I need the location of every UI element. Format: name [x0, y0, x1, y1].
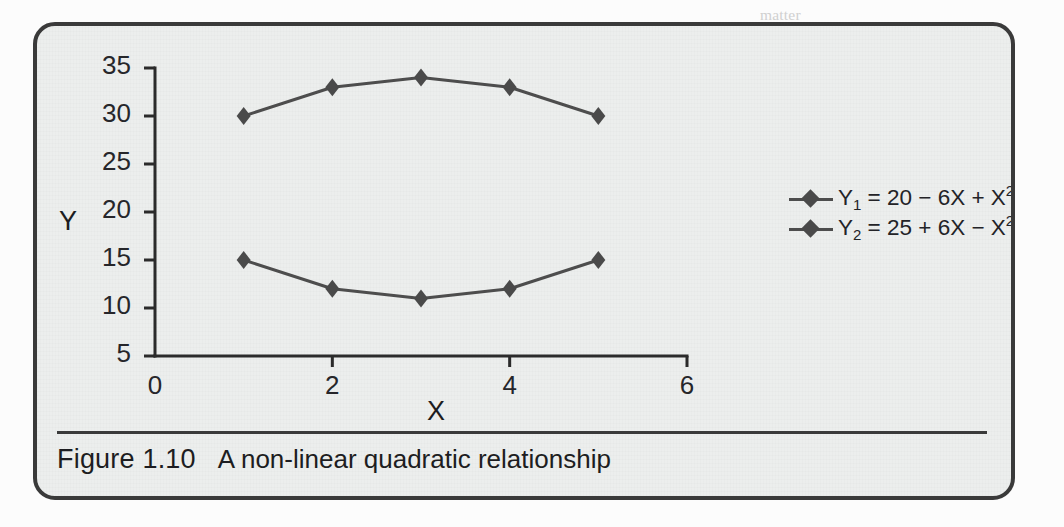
legend-item-y2: Y2 = 25 + 6X − X2	[789, 214, 1014, 244]
caption-divider	[57, 431, 987, 434]
legend-label-y2: Y2 = 25 + 6X − X2	[838, 206, 1014, 250]
x-axis-title: X	[427, 396, 445, 427]
data-point-marker	[503, 78, 517, 96]
y-axis-tick-label: 35	[102, 50, 131, 81]
x-axis-tick-label: 0	[148, 370, 162, 401]
y-axis-tick-label: 25	[102, 146, 131, 177]
x-axis-tick-label: 4	[502, 370, 516, 401]
scanned-page: mattervariation in any population, must …	[0, 0, 1064, 527]
y-axis-tick-label: 20	[102, 194, 131, 225]
legend-marker-icon	[789, 220, 833, 238]
y-axis-tick-label: 15	[102, 242, 131, 273]
figure-box: 51015202530350246 Y X Y1 = 20 − 6X + X2 …	[33, 22, 1015, 500]
figure-number: Figure 1.10	[57, 444, 196, 474]
x-axis-tick-label: 2	[325, 370, 339, 401]
x-axis-tick-label: 6	[680, 370, 694, 401]
y-axis-tick-label: 30	[102, 98, 131, 129]
y-axis-title: Y	[59, 206, 77, 237]
data-point-marker	[414, 289, 428, 307]
data-point-marker	[414, 69, 428, 87]
data-point-marker	[591, 251, 605, 269]
data-point-marker	[325, 280, 339, 298]
chart-legend: Y1 = 20 − 6X + X2 Y2 = 25 + 6X − X2	[789, 184, 1014, 244]
data-point-marker	[237, 107, 251, 125]
figure-caption: Figure 1.10A non-linear quadratic relati…	[57, 444, 611, 475]
y-axis-tick-label: 10	[102, 290, 131, 321]
data-point-marker	[237, 251, 251, 269]
figure-caption-text: A non-linear quadratic relationship	[218, 444, 611, 474]
data-point-marker	[503, 280, 517, 298]
y-axis-tick-label: 5	[117, 338, 131, 369]
data-point-marker	[591, 107, 605, 125]
data-point-marker	[325, 78, 339, 96]
legend-marker-icon	[789, 190, 833, 208]
